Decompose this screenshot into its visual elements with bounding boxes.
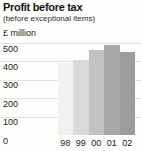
y-axis-tick-label-500: 500	[3, 45, 18, 54]
gridline-500	[0, 43, 141, 44]
plot-area	[0, 43, 141, 135]
bar-01	[104, 45, 120, 135]
chart-subtitle: (before exceptional items)	[3, 14, 95, 23]
bar-00	[89, 50, 105, 135]
bar-98	[58, 63, 74, 135]
profit-before-tax-chart: Profit before tax (before exceptional it…	[0, 0, 141, 151]
y-axis-tick-label-0: 0	[3, 137, 8, 146]
chart-title: Profit before tax	[3, 1, 82, 13]
x-axis-tick-label-01: 01	[104, 139, 120, 148]
x-axis-tick-label-02: 02	[120, 139, 136, 148]
y-axis-unit-label: £ million	[3, 28, 36, 38]
y-axis-tick-label-200: 200	[3, 100, 18, 109]
y-axis-tick-label-100: 100	[3, 118, 18, 127]
x-axis-tick-label-00: 00	[89, 139, 105, 148]
bar-99	[73, 60, 89, 135]
y-axis-tick-label-400: 400	[3, 63, 18, 72]
x-axis-tick-label-99: 99	[73, 139, 89, 148]
bar-02	[120, 52, 136, 135]
y-axis-tick-label-300: 300	[3, 81, 18, 90]
x-axis-tick-label-98: 98	[58, 139, 74, 148]
